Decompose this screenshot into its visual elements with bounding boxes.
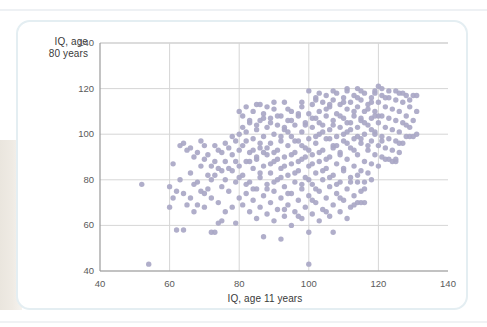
data-point (237, 195, 242, 200)
data-point (264, 186, 269, 191)
data-point (313, 97, 318, 102)
data-point (285, 129, 290, 134)
data-point (344, 216, 349, 221)
data-point (212, 143, 217, 148)
data-point (393, 118, 398, 123)
data-point (212, 230, 217, 235)
data-point (393, 88, 398, 93)
data-point (383, 104, 388, 109)
data-point (330, 145, 335, 150)
data-point (369, 177, 374, 182)
data-point (341, 100, 346, 105)
data-point (334, 134, 339, 139)
data-point (261, 193, 266, 198)
data-point (198, 163, 203, 168)
data-point (237, 132, 242, 137)
data-point (268, 200, 273, 205)
data-point (240, 143, 245, 148)
data-point (407, 97, 412, 102)
data-point (264, 104, 269, 109)
data-point (250, 166, 255, 171)
data-point (289, 161, 294, 166)
data-point (313, 170, 318, 175)
data-point (254, 154, 259, 159)
data-point (365, 106, 370, 111)
data-point (233, 159, 238, 164)
data-point (292, 138, 297, 143)
data-point (264, 145, 269, 150)
data-point (191, 209, 196, 214)
data-point (289, 223, 294, 228)
data-point (320, 168, 325, 173)
data-point (355, 152, 360, 157)
data-point (268, 161, 273, 166)
data-point (351, 109, 356, 114)
data-point (330, 88, 335, 93)
data-point (289, 134, 294, 139)
data-point (233, 138, 238, 143)
data-point (379, 86, 384, 91)
data-point (198, 138, 203, 143)
data-point (271, 189, 276, 194)
data-point (306, 177, 311, 182)
data-point (247, 118, 252, 123)
data-point (170, 195, 175, 200)
data-point (324, 209, 329, 214)
data-point (188, 170, 193, 175)
data-point (362, 186, 367, 191)
data-point (310, 116, 315, 121)
data-point (358, 168, 363, 173)
data-point (275, 122, 280, 127)
data-point (310, 152, 315, 157)
data-point (404, 113, 409, 118)
data-point (344, 86, 349, 91)
data-point (306, 136, 311, 141)
data-point (386, 136, 391, 141)
data-point (379, 138, 384, 143)
data-point (376, 163, 381, 168)
data-point (167, 184, 172, 189)
data-point (268, 141, 273, 146)
data-point (310, 125, 315, 130)
data-point (264, 211, 269, 216)
data-point (355, 125, 360, 130)
data-point (327, 136, 332, 141)
data-point (243, 129, 248, 134)
data-point (184, 202, 189, 207)
data-point (278, 236, 283, 241)
data-point (296, 111, 301, 116)
data-point (285, 173, 290, 178)
data-point (275, 207, 280, 212)
data-point (317, 218, 322, 223)
data-point (306, 88, 311, 93)
data-point (271, 150, 276, 155)
data-point (365, 143, 370, 148)
data-point (369, 100, 374, 105)
data-point (167, 204, 172, 209)
data-point (254, 216, 259, 221)
data-point (202, 157, 207, 162)
data-point (296, 198, 301, 203)
data-point (299, 100, 304, 105)
data-point (376, 100, 381, 105)
data-point (250, 186, 255, 191)
data-point (390, 106, 395, 111)
data-point (383, 145, 388, 150)
data-point (250, 109, 255, 114)
data-point (306, 111, 311, 116)
data-point (303, 154, 308, 159)
data-point (285, 202, 290, 207)
data-point (372, 90, 377, 95)
data-point (268, 170, 273, 175)
data-point (303, 204, 308, 209)
data-point (351, 202, 356, 207)
data-point (330, 202, 335, 207)
data-point (358, 116, 363, 121)
data-point (365, 170, 370, 175)
data-point (261, 150, 266, 155)
data-point (390, 127, 395, 132)
data-point (303, 122, 308, 127)
data-point (355, 179, 360, 184)
data-point (296, 159, 301, 164)
data-point (219, 168, 224, 173)
